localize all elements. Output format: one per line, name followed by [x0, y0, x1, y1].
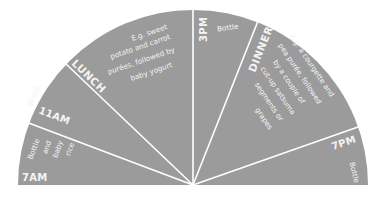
- time-label-7am: 7AM: [22, 172, 48, 183]
- feeding-schedule-diagram: 7AM Bottle and baby rice 11AM Bottle LUN…: [0, 0, 387, 198]
- time-label-3pm: 3PM: [198, 17, 209, 42]
